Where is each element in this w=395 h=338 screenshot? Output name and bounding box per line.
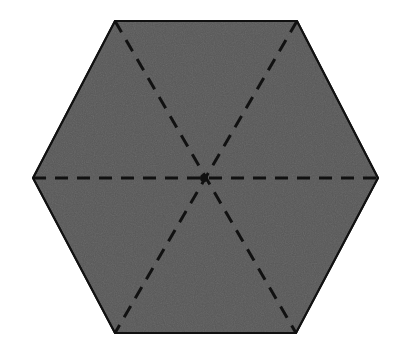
hexagon-diagram [0, 0, 395, 338]
figure-container [0, 0, 395, 338]
center-point-marker [200, 174, 208, 182]
